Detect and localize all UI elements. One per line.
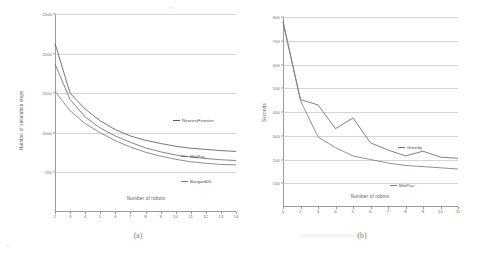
legend-label: MinPos xyxy=(399,183,414,188)
y-tick-label: 1000 xyxy=(42,130,52,135)
caption-b: (b) xyxy=(358,231,367,240)
y-tick-label: 2500 xyxy=(42,12,52,17)
legend-item: MinPos xyxy=(390,183,414,188)
x-tick-label: 6 xyxy=(369,209,371,214)
y-tick-label: 100 xyxy=(273,181,280,186)
legend-item: Burgard05 xyxy=(181,179,211,184)
legend-label: NearestFrontier xyxy=(182,118,214,123)
x-tick-label: 8 xyxy=(404,209,406,214)
caption-a: (a) xyxy=(134,231,142,240)
legend-swatch xyxy=(181,181,188,182)
legend-label: Greedy xyxy=(407,145,422,150)
x-axis-label-b: Number of robots xyxy=(351,194,390,199)
y-tick-label: 1500 xyxy=(42,91,52,96)
legend-label: Burgard05 xyxy=(190,179,211,184)
y-axis-label-b: Seconds xyxy=(262,103,267,122)
y-axis-label-a: Number of simulation steps xyxy=(19,90,24,150)
legend-swatch xyxy=(390,185,397,186)
x-tick-label: 3 xyxy=(317,209,319,214)
x-tick-label: 9 xyxy=(422,209,424,214)
legend-swatch xyxy=(181,156,188,157)
x-tick-label: 12 xyxy=(203,214,208,219)
legend-item: NearestFrontier xyxy=(173,118,214,123)
x-tick-label: 6 xyxy=(114,214,116,219)
y-tick-label: 500 xyxy=(45,170,52,175)
y-tick-label: 300 xyxy=(273,133,280,138)
plot-area-a: 2500200015001000500 234567891011121314 N… xyxy=(55,14,236,212)
y-tick-label: 800 xyxy=(273,15,280,20)
chart-panel-b: 800700600500400300200100 1234567891011 G… xyxy=(250,0,484,256)
legend-label: MinPos xyxy=(190,154,205,159)
y-tick-label: 600 xyxy=(273,62,280,67)
series-line xyxy=(55,92,236,165)
x-tick-label: 10 xyxy=(173,214,178,219)
x-tick-label: 4 xyxy=(334,209,336,214)
x-tick-label: 2 xyxy=(299,209,301,214)
x-tick-label: 10 xyxy=(438,209,443,214)
legend-swatch xyxy=(173,120,180,121)
chart-panel-a: Number of simulation steps Number of rob… xyxy=(0,0,250,256)
x-tick-label: 9 xyxy=(159,214,161,219)
x-tick-label: 8 xyxy=(144,214,146,219)
x-tick-label: 5 xyxy=(352,209,354,214)
x-tick-label: 3 xyxy=(69,214,71,219)
y-tick-label: 200 xyxy=(273,157,280,162)
x-tick-label: 4 xyxy=(84,214,86,219)
series-line xyxy=(55,64,236,161)
x-tick-label: 13 xyxy=(219,214,224,219)
y-tick-label: 500 xyxy=(273,86,280,91)
series-lines-b xyxy=(283,17,458,207)
x-tick-label: 11 xyxy=(456,209,460,214)
x-tick-label: 5 xyxy=(99,214,101,219)
x-tick-label: 2 xyxy=(54,214,56,219)
series-line xyxy=(283,22,458,169)
x-tick-label: 11 xyxy=(189,214,193,219)
legend-item: MinPos xyxy=(181,154,205,159)
y-tick-label: 700 xyxy=(273,38,280,43)
x-tick-label: 7 xyxy=(387,209,389,214)
plot-area-b: 800700600500400300200100 1234567891011 G… xyxy=(283,17,458,207)
figure-container: Number of simulation steps Number of rob… xyxy=(0,0,484,256)
series-line xyxy=(283,22,458,159)
series-line xyxy=(55,43,236,151)
legend-swatch xyxy=(398,147,405,148)
x-tick-label: 7 xyxy=(129,214,131,219)
y-tick-label: 400 xyxy=(273,110,280,115)
x-tick-label: 14 xyxy=(234,214,239,219)
legend-item: Greedy xyxy=(398,145,422,150)
x-tick-label: 1 xyxy=(282,209,284,214)
y-tick-label: 2000 xyxy=(42,51,52,56)
